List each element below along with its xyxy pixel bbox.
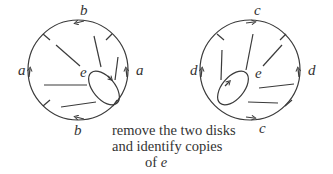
arrow-right-a [126,69,127,77]
label-bottom-b: b [74,122,82,138]
tick [106,34,112,40]
arrow-top-c [246,22,254,23]
arrow-bottom-b [76,117,84,119]
arc [115,57,118,80]
diagram-canvas: b b a a e c c d d e remove the two [0,0,333,174]
arrow-left-a [29,69,30,77]
tick [217,34,224,40]
label-left-a: a [18,62,26,78]
arc [259,84,294,88]
tick [285,100,292,106]
caption-line-2: and identify copies [112,138,223,154]
arc [94,36,101,67]
arc [263,45,282,66]
arrow-top-b [76,21,84,23]
right-small-disk [212,66,255,111]
label-left-d: d [190,62,198,78]
arrow-bottom-c [246,117,254,118]
arrow-disk [225,82,229,86]
arc [221,50,222,80]
tick [280,34,286,40]
label-top-b: b [80,2,88,18]
left-small-disk [83,66,126,111]
right-disk: c c d d e [190,2,316,136]
arc [248,102,278,103]
arc [246,34,253,70]
label-center-e: e [255,65,262,81]
left-disk: b b a a e [18,2,144,138]
caption: remove the two disks and identify copies… [112,122,236,170]
label-right-a: a [136,62,144,78]
label-bottom-c: c [259,120,266,136]
caption-line-3: of e [145,154,168,170]
caption-line-3-prefix: of [145,154,161,170]
tick [43,100,50,106]
caption-line-1: remove the two disks [112,122,236,138]
caption-line-3-var: e [161,154,168,170]
arrow-left-d [201,69,202,77]
label-right-d: d [308,62,316,78]
label-center-e: e [80,64,87,80]
label-top-c: c [254,2,261,18]
arc [61,102,96,107]
arrow-right-d [298,69,299,77]
arc [56,45,80,66]
tick [43,34,50,40]
